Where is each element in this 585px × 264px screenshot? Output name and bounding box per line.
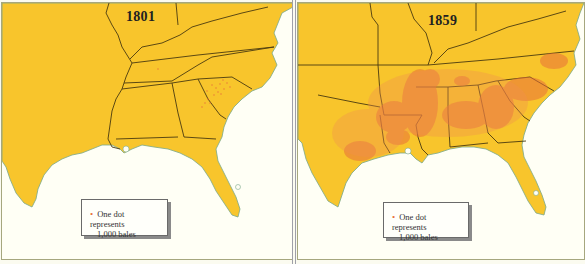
legend-line-1: One dot represents	[392, 212, 426, 232]
panel-divider	[292, 0, 296, 264]
map-legend: •One dot represents 1,000 bales	[81, 199, 168, 236]
map-1859: 1859 •One dot represents 1,000 bales	[297, 2, 585, 260]
map-1801: 1801 •One dot represents 1,000 bales	[1, 2, 294, 260]
dot-symbol-icon: •	[90, 209, 93, 219]
map-year-title: 1859	[428, 13, 457, 29]
legend-line-1: One dot represents	[90, 209, 124, 229]
dot-symbol-icon: •	[392, 212, 395, 222]
map-legend: •One dot represents 1,000 bales	[383, 202, 469, 238]
map-year-title: 1801	[126, 9, 155, 25]
land	[2, 3, 293, 217]
legend-line-2: 1,000 bales	[392, 232, 460, 242]
legend-line-2: 1,000 bales	[90, 229, 159, 239]
